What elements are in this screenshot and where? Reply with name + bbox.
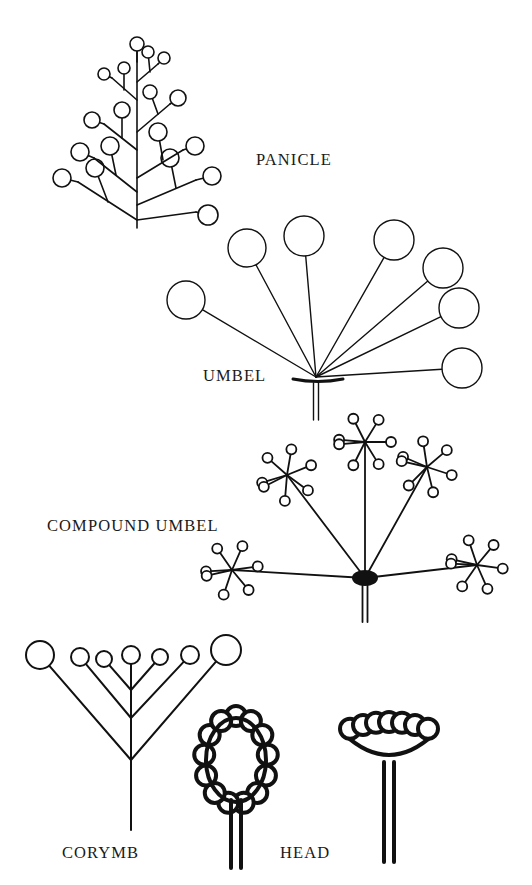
corymb-flower [181, 646, 199, 664]
panicle-flower [86, 159, 104, 177]
compound-umbel-floret [464, 535, 474, 545]
compound-umbel-floret [259, 482, 269, 492]
compound-umbel-floret [212, 544, 222, 554]
umbel-flower [228, 229, 266, 267]
panicle-flower [170, 90, 186, 106]
label-head: HEAD [280, 845, 330, 862]
panicle-flower [130, 37, 144, 51]
compound-umbel-floret [334, 439, 344, 449]
corymb-flower [122, 646, 140, 664]
umbel-flower [423, 248, 463, 288]
compound-umbel-floret [418, 436, 428, 446]
umbel-flower [167, 281, 205, 319]
compound-umbel-pedicel [456, 564, 477, 565]
compound-umbel-floret [237, 541, 247, 551]
label-compound-umbel: COMPOUND UMBEL [47, 518, 219, 535]
compound-umbel-floret [280, 496, 290, 506]
compound-umbel-floret [482, 584, 492, 594]
compound-umbel-floret [303, 485, 313, 495]
compound-umbel-floret [442, 445, 452, 455]
label-corymb: CORYMB [62, 845, 139, 862]
inflorescence-figure [0, 0, 532, 885]
compound-umbel-floret [374, 459, 384, 469]
panicle-flower [118, 62, 130, 74]
panicle-flower [71, 143, 89, 161]
compound-umbel-floret [489, 540, 499, 550]
compound-umbel-floret [404, 480, 414, 490]
corymb-flower [152, 649, 168, 665]
panicle-flower [84, 112, 100, 128]
compound-umbel-floret [447, 470, 457, 480]
compound-umbel-floret [306, 460, 316, 470]
panicle-flower [198, 205, 218, 225]
panicle-flower [203, 167, 221, 185]
compound-umbel-floret [348, 460, 358, 470]
corymb-flower [211, 635, 241, 665]
panicle-flower [149, 123, 167, 141]
panicle-flower [186, 137, 204, 155]
label-panicle: PANICLE [256, 152, 332, 169]
panicle-flower [143, 85, 157, 99]
compound-umbel-floret [262, 453, 272, 463]
compound-umbel-floret [286, 444, 296, 454]
compound-umbel-floret [457, 581, 467, 591]
compound-umbel-floret [244, 585, 254, 595]
umbel-flower [374, 220, 414, 260]
label-umbel: UMBEL [203, 368, 266, 385]
compound-umbel-floret [219, 590, 229, 600]
corymb-flower [96, 651, 112, 667]
compound-umbel-hub [352, 570, 378, 586]
panicle-flower [158, 52, 170, 64]
compound-umbel-floret [253, 561, 263, 571]
umbel-flower [439, 288, 479, 328]
corymb-flower [71, 648, 89, 666]
compound-umbel-floret [386, 437, 396, 447]
umbel-flower [284, 216, 324, 256]
head-flat-floret [418, 719, 438, 739]
compound-umbel-floret [428, 487, 438, 497]
compound-umbel-floret [374, 415, 384, 425]
panicle-flower [101, 137, 119, 155]
compound-umbel-floret [397, 456, 407, 466]
compound-umbel-floret [498, 564, 508, 574]
umbel-flower [442, 348, 482, 388]
compound-umbel-floret [348, 414, 358, 424]
panicle-flower [98, 68, 110, 80]
panicle-flower [53, 169, 71, 187]
compound-umbel-floret [202, 571, 212, 581]
panicle-flower [114, 102, 130, 118]
corymb-flower [26, 641, 54, 669]
compound-umbel-floret [446, 559, 456, 569]
